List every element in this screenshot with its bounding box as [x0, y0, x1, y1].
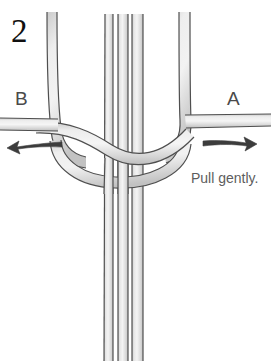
- cord-label-b: B: [15, 89, 28, 108]
- knot-diagram-figure: 2 B A Pull gently.: [0, 0, 271, 361]
- right-arrow-icon: [203, 137, 257, 151]
- cord-b-tail: [0, 118, 58, 131]
- instruction-caption: Pull gently.: [191, 170, 258, 186]
- step-number: 2: [11, 15, 28, 48]
- cord-a-tail: [185, 114, 271, 128]
- cord-label-a: A: [227, 89, 240, 108]
